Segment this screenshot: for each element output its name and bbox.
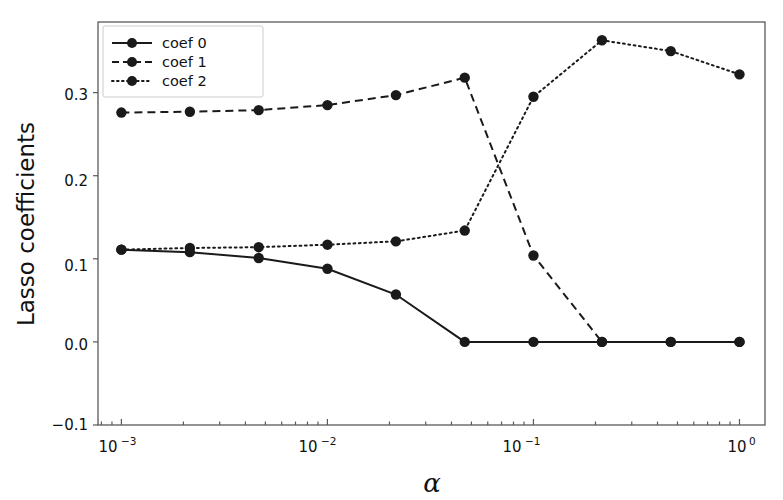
data-point: [185, 107, 195, 117]
x-tick-exponent-1e-2: −2: [321, 435, 336, 447]
data-point: [322, 100, 332, 110]
data-point: [391, 236, 401, 246]
x-tick-exponent-1e-3: −3: [121, 435, 136, 447]
legend-label-coef-0: coef 0: [162, 35, 207, 51]
data-point: [116, 244, 126, 254]
legend: coef 0 coef 1 coef 2: [103, 26, 263, 97]
legend-marker-coef-1: [127, 57, 137, 67]
x-tick-base-1e0: 10: [727, 438, 746, 456]
y-axis-title: Lasso coefficients: [13, 122, 39, 326]
data-point: [322, 239, 332, 249]
y-tick-label-0.2: 0.2: [64, 172, 88, 190]
legend-label-coef-2: coef 2: [162, 73, 207, 89]
y-tick-label-0.1: 0.1: [64, 257, 88, 275]
data-point: [254, 253, 264, 263]
data-point: [254, 242, 264, 252]
data-point: [460, 225, 470, 235]
legend-marker-coef-2: [127, 76, 137, 86]
y-tick-label--0.1: −0.1: [52, 416, 88, 434]
x-tick-base-1e-3: 10: [98, 438, 117, 456]
data-point: [528, 250, 538, 260]
data-point: [597, 337, 607, 347]
data-point: [460, 72, 470, 82]
x-tick-base-1e-2: 10: [298, 438, 317, 456]
data-point: [391, 289, 401, 299]
data-point: [460, 337, 470, 347]
data-point: [116, 107, 126, 117]
figure-canvas: 0.3 0.2 0.1 0.0 −0.1 10 −3 10 −2 10 −1 1…: [0, 0, 783, 500]
x-tick-base-1e-1: 10: [502, 438, 521, 456]
data-point: [528, 92, 538, 102]
x-tick-label-1e-1: 10 −1: [502, 435, 540, 456]
lasso-coefficients-chart: 0.3 0.2 0.1 0.0 −0.1 10 −3 10 −2 10 −1 1…: [0, 0, 783, 500]
x-tick-exponent-1e-1: −1: [525, 435, 540, 447]
data-point: [391, 90, 401, 100]
legend-label-coef-1: coef 1: [162, 54, 207, 70]
data-point: [528, 337, 538, 347]
data-point: [666, 46, 676, 56]
data-point: [597, 35, 607, 45]
data-point: [734, 337, 744, 347]
x-tick-label-1e-3: 10 −3: [98, 435, 136, 456]
data-point: [666, 337, 676, 347]
y-tick-label-0.0: 0.0: [64, 336, 88, 354]
data-point: [254, 105, 264, 115]
legend-marker-coef-0: [127, 38, 137, 48]
data-point: [734, 69, 744, 79]
x-tick-label-1e0: 10 0: [727, 435, 755, 456]
data-point: [185, 243, 195, 253]
y-tick-label-0.3: 0.3: [64, 86, 88, 104]
x-tick-label-1e-2: 10 −2: [298, 435, 336, 456]
x-tick-exponent-1e0: 0: [749, 435, 756, 447]
data-point: [322, 264, 332, 274]
x-axis-title: α: [423, 468, 441, 498]
